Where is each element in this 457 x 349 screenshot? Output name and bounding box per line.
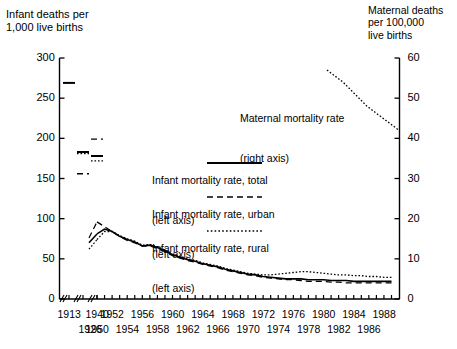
x-tick-label-top: 1972 xyxy=(252,308,275,320)
right-tick-label: 20 xyxy=(408,212,420,225)
legend-sub-rural: (left axis) xyxy=(152,282,269,295)
right-tick-label: 40 xyxy=(408,131,420,144)
right-tick-label: 30 xyxy=(408,172,420,185)
x-tick-label-bottom: 1962 xyxy=(176,323,199,335)
x-tick-label-top: 1952 xyxy=(101,308,124,320)
chart-figure: Infant deaths per 1,000 live births Mate… xyxy=(0,0,457,349)
x-tick-label-bottom: 1970 xyxy=(237,323,260,335)
x-tick-label-bottom: 1986 xyxy=(357,323,380,335)
x-tick-label-top: 1956 xyxy=(131,308,154,320)
x-tick-label-top: 1976 xyxy=(282,308,305,320)
left-tick-label: 250 xyxy=(37,91,55,104)
left-tick-label: 100 xyxy=(37,212,55,225)
x-tick-label-top: 1913 xyxy=(58,308,81,320)
x-tick-label-top: 1960 xyxy=(161,308,184,320)
x-tick-label-bottom: 1966 xyxy=(206,323,229,335)
right-tick-label: 10 xyxy=(408,252,420,265)
x-tick-label-bottom: 1958 xyxy=(146,323,169,335)
x-tick-label-bottom: 1978 xyxy=(297,323,320,335)
right-tick-label: 60 xyxy=(408,51,420,64)
left-tick-label: 50 xyxy=(43,252,55,265)
maternal-annotation-line1: Maternal mortality rate xyxy=(240,112,344,125)
x-tick-label-top: 1980 xyxy=(312,308,335,320)
x-tick-label-top: 1984 xyxy=(342,308,365,320)
legend-item-rural: Infant mortality rate, rural (left axis) xyxy=(152,216,269,321)
x-tick-label-top: 1968 xyxy=(221,308,244,320)
x-tick-label-top: 1964 xyxy=(191,308,214,320)
x-tick-label-bottom: 1954 xyxy=(116,323,139,335)
x-tick-label-bottom: 1982 xyxy=(327,323,350,335)
right-tick-label: 0 xyxy=(408,292,414,305)
left-tick-label: 200 xyxy=(37,131,55,144)
legend-label-rural: Infant mortality rate, rural xyxy=(152,242,269,255)
left-tick-label: 0 xyxy=(49,292,55,305)
right-tick-label: 50 xyxy=(408,91,420,104)
left-tick-label: 300 xyxy=(37,51,55,64)
x-tick-label-bottom: 1974 xyxy=(267,323,290,335)
x-tick-label-bottom: 1950 xyxy=(86,323,109,335)
left-tick-label: 150 xyxy=(37,172,55,185)
x-tick-label-top: 1988 xyxy=(372,308,395,320)
